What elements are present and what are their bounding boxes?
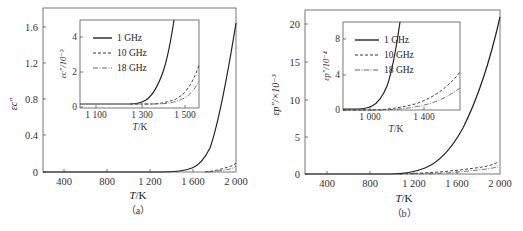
panel-a-inset-y-axis-label: εc"/10⁻³ [58, 49, 68, 78]
panel-a: 0 0.4 0.8 1.2 1.6 400 800 1 200 1 600 2 … [8, 8, 248, 216]
panel-a-y-ticks [43, 27, 46, 172]
panel-b-x-axis-label: T/K [395, 192, 412, 204]
panel-a-ytick-3: 1.2 [25, 58, 38, 69]
panel-a-legend-1ghz: 1 GHz [117, 33, 142, 43]
panel-b-ytick-4: 20 [290, 19, 301, 30]
panel-a-inset-x-axis-label: T/K [133, 122, 148, 132]
panel-b-inset-x-axis-label: T/K [389, 124, 404, 134]
panel-a-xtick-1: 800 [99, 176, 115, 187]
panel-a-ytick-1: 0.4 [25, 130, 39, 141]
panel-b-y-ticks [305, 24, 308, 174]
panel-b-inset-xtick-1: 1 400 [413, 112, 435, 122]
panel-b-ytick-0: 0 [295, 169, 300, 180]
panel-b: 0 5 10 15 20 400 800 1 200 1 600 2 000 T… [270, 10, 512, 219]
panel-b-legend-18ghz: 18 GHz [384, 65, 414, 75]
panel-a-xtick-4: 2 000 [224, 176, 248, 187]
panel-a-inset-ytick-0: 0 [72, 102, 77, 112]
panel-a-inset-ytick-1: 2 [72, 67, 77, 77]
panel-b-xtick-0: 400 [319, 178, 335, 189]
panel-a-legend-10ghz: 10 GHz [117, 48, 147, 58]
panel-a-inset-xtick-2: 1 500 [174, 110, 196, 120]
panel-a-xtick-0: 400 [56, 176, 72, 187]
panel-a-ytick-4: 1.6 [25, 22, 38, 33]
panel-a-inset: 0 2 4 1 100 1 300 1 500 T/K εc"/10⁻³ 1 G… [58, 20, 199, 132]
panel-a-inset-xtick-0: 1 100 [85, 110, 107, 120]
panel-b-curve-18ghz [410, 167, 498, 174]
panel-b-ytick-3: 15 [290, 57, 301, 68]
panel-b-xtick-4: 2 000 [488, 178, 512, 189]
panel-a-xtick-2: 1 200 [138, 176, 162, 187]
panel-b-ytick-2: 10 [290, 95, 301, 106]
panel-a-ytick-0: 0 [33, 167, 38, 178]
panel-a-xtick-3: 1 600 [181, 176, 205, 187]
panel-b-inset-xtick-0: 1 000 [359, 112, 381, 122]
panel-b-inset-ytick-2: 8 [335, 34, 340, 44]
panel-a-x-axis-label: T/K [129, 189, 146, 201]
panel-b-ytick-1: 5 [295, 132, 300, 143]
panel-b-inset: 0 4 8 1 000 1 400 T/K εp"/10⁻⁴ 1 GHz 10 … [321, 22, 460, 134]
panel-b-xtick-1: 800 [362, 178, 378, 189]
panel-a-y-axis-label: εc" [8, 97, 19, 110]
panel-a-inset-ytick-2: 4 [72, 32, 77, 42]
panel-b-caption: （b） [392, 208, 417, 219]
panel-a-caption: （a） [126, 205, 150, 216]
panel-b-inset-ytick-0: 0 [335, 105, 340, 115]
figure-canvas: 0 0.4 0.8 1.2 1.6 400 800 1 200 1 600 2 … [0, 0, 523, 231]
panel-b-curve-10ghz [400, 162, 498, 174]
panel-b-legend-1ghz: 1 GHz [384, 35, 409, 45]
panel-b-y-axis-label: εp"/×10⁻³ [270, 74, 281, 116]
panel-a-inset-xtick-1: 1 300 [131, 110, 153, 120]
panel-b-inset-ytick-1: 4 [335, 70, 340, 80]
panel-a-legend-18ghz: 18 GHz [117, 63, 147, 73]
panel-a-ytick-2: 0.8 [25, 94, 38, 105]
panel-b-legend-10ghz: 10 GHz [384, 50, 414, 60]
panel-b-xtick-2: 1 200 [402, 178, 426, 189]
panel-b-xtick-3: 1 600 [445, 178, 469, 189]
panel-b-inset-y-axis-label: εp"/10⁻⁴ [321, 51, 331, 81]
